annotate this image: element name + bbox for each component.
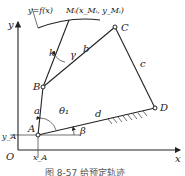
joint-B — [41, 85, 45, 89]
point-D-label: D — [159, 102, 168, 113]
beta-label: β — [79, 125, 86, 136]
curve-label: y=f(x) — [27, 6, 53, 15]
four-bar-linkage-diagram: y=f(x) Mᵢ(x_Mᵢ, y_Mᵢ) y x O y_A x_A A B … — [0, 0, 185, 176]
gamma-label: γ — [70, 49, 76, 60]
point-M-label: Mᵢ(x_Mᵢ, y_Mᵢ) — [65, 6, 124, 15]
point-B-label: B — [32, 81, 40, 92]
link-k — [43, 20, 69, 87]
yA-label: y_A — [1, 132, 17, 141]
link-c — [115, 27, 155, 108]
theta1-label: θ₁ — [59, 105, 69, 116]
joint-C — [113, 25, 117, 29]
x-axis-label: x — [175, 153, 181, 164]
y-axis-label: y — [7, 19, 14, 30]
beta-arc — [73, 127, 74, 135]
link-d-label: d — [95, 108, 101, 119]
point-A-label: A — [27, 123, 35, 134]
link-k-label: k — [49, 47, 55, 58]
link-c-label: c — [140, 58, 146, 69]
point-C-label: C — [121, 22, 129, 33]
theta1-arc — [40, 118, 56, 130]
link-a-label: a — [34, 105, 40, 116]
joint-D — [153, 106, 157, 110]
gamma-arc — [55, 55, 65, 62]
origin-label: O — [6, 151, 14, 162]
figure-caption: 图 8-57 给预定轨迹 — [45, 167, 125, 176]
link-b-label: b — [83, 43, 89, 54]
joint-A — [36, 133, 40, 137]
xA-label: x_A — [33, 153, 48, 162]
